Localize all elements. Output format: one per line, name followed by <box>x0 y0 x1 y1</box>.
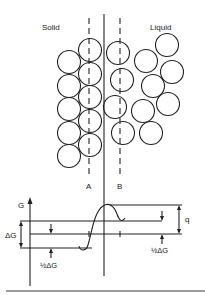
plane-b-label: B <box>117 182 122 191</box>
delta-g-label: ΔG <box>5 231 17 240</box>
liquid-atom <box>142 75 165 98</box>
liquid-atoms <box>104 34 184 145</box>
solid-atom <box>58 145 81 168</box>
delta-g-arrowhead-up-icon <box>19 221 23 226</box>
liquid-atom <box>135 50 158 73</box>
q-label: q <box>185 215 189 224</box>
liquid-atom <box>132 100 155 123</box>
solid-atom <box>79 110 102 133</box>
solid-atoms <box>58 39 102 168</box>
q-arrowhead-down-icon <box>177 229 181 234</box>
solid-atom <box>58 51 81 74</box>
liquid-atom <box>157 93 180 116</box>
q-arrowhead-up-icon <box>177 205 181 210</box>
liquid-atom <box>107 42 130 65</box>
g-axis-arrowhead-icon <box>28 197 33 204</box>
left-arrowhead-up-icon <box>49 248 53 253</box>
right-arrowhead-up-icon <box>160 234 164 239</box>
g-axis-label: G <box>18 201 24 210</box>
half-delta-g-left-label: ½ΔG <box>40 261 57 270</box>
solid-atom <box>79 86 102 109</box>
solid-atom <box>58 75 81 98</box>
solid-atom <box>58 98 81 121</box>
liquid-atom <box>161 61 184 84</box>
free-energy-curve <box>79 204 125 250</box>
solid-atom <box>79 63 102 86</box>
solid-liquid-interface-diagram: Solid Liquid A B G ΔG ½ΔG ½ΔG q <box>0 0 205 295</box>
solid-atom <box>79 134 102 157</box>
liquid-atom <box>104 96 127 119</box>
liquid-atom <box>156 34 179 57</box>
delta-g-arrowhead-down-icon <box>19 243 23 248</box>
half-delta-g-right-label: ½ΔG <box>151 246 168 255</box>
right-arrowhead-down-icon <box>160 216 164 221</box>
solid-atom <box>79 39 102 62</box>
left-arrowhead-down-icon <box>49 229 53 234</box>
solid-label: Solid <box>42 23 60 32</box>
solid-atom <box>58 122 81 145</box>
plane-a-label: A <box>86 182 92 191</box>
liquid-atom <box>111 69 134 92</box>
liquid-atom <box>140 122 163 145</box>
liquid-atom <box>112 122 135 145</box>
liquid-label: Liquid <box>150 23 171 32</box>
